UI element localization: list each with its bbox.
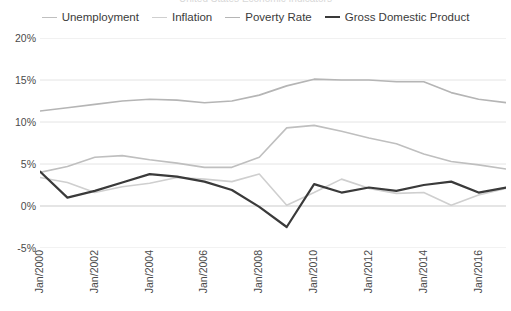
x-axis-tick-label: Jan/2008 [253, 250, 263, 293]
series-line-gross-domestic-product[interactable] [40, 172, 506, 227]
chart-legend: UnemploymentInflationPoverty RateGross D… [0, 8, 511, 26]
chart-title-clipped: United States Economic Indicators [0, 0, 511, 2]
x-axis-tick-label: Jan/2010 [308, 250, 318, 293]
legend-item-poverty-rate[interactable]: Poverty Rate [225, 12, 311, 23]
y-axis-tick-label: 20% [15, 33, 36, 43]
plot-area [40, 38, 506, 248]
chart-title: United States Economic Indicators [0, 0, 511, 2]
y-axis: 20%15%10%5%0%-5% [0, 38, 36, 248]
x-axis-tick-label: Jan/2014 [418, 250, 428, 293]
y-axis-tick-label: 15% [15, 75, 36, 85]
legend-label: Inflation [172, 12, 212, 23]
x-axis-tick-label: Jan/2004 [144, 250, 154, 293]
y-axis-tick-label: 0% [21, 201, 36, 211]
series-line-inflation[interactable] [40, 174, 506, 205]
plot-svg [40, 38, 506, 248]
legend-label: Unemployment [62, 12, 139, 23]
x-axis-tick-label: Jan/2000 [34, 250, 44, 293]
legend-item-inflation[interactable]: Inflation [152, 12, 212, 23]
legend-item-gross-domestic-product[interactable]: Gross Domestic Product [325, 12, 470, 23]
legend-label: Poverty Rate [245, 12, 311, 23]
series-line-poverty-rate[interactable] [40, 79, 506, 111]
economic-indicators-chart: United States Economic Indicators Unempl… [0, 0, 511, 311]
x-axis-tick-label: Jan/2006 [198, 250, 208, 293]
y-axis-tick-label: 5% [21, 159, 36, 169]
series-line-unemployment[interactable] [40, 125, 506, 172]
x-axis-tick-label: Jan/2002 [89, 250, 99, 293]
legend-label: Gross Domestic Product [345, 12, 470, 23]
x-axis: Jan/2000Jan/2002Jan/2004Jan/2006Jan/2008… [40, 250, 506, 311]
x-axis-tick-label: Jan/2012 [363, 250, 373, 293]
legend-swatch-icon [42, 17, 57, 18]
legend-item-unemployment[interactable]: Unemployment [42, 12, 139, 23]
legend-swatch-icon [325, 16, 340, 18]
x-axis-tick-label: Jan/2016 [473, 250, 483, 293]
y-axis-tick-label: 10% [15, 117, 36, 127]
legend-swatch-icon [225, 17, 240, 18]
legend-swatch-icon [152, 17, 167, 18]
